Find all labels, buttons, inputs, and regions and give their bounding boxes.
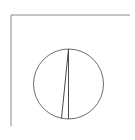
chord-line bbox=[62, 49, 69, 119]
diagram-canvas bbox=[0, 0, 135, 140]
